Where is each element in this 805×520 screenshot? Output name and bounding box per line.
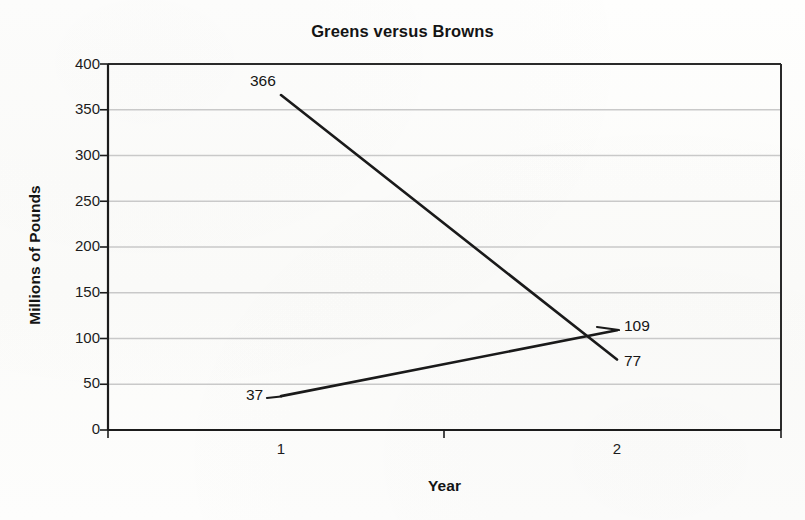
x-axis-ticks — [108, 430, 781, 438]
series-line-greens — [281, 330, 617, 396]
series-line-browns — [281, 95, 617, 359]
chart-page: Greens versus Browns Millions of Pounds … — [0, 0, 805, 520]
gridlines — [108, 110, 781, 385]
y-axis-ticks — [100, 64, 108, 430]
plot-area — [0, 0, 805, 520]
